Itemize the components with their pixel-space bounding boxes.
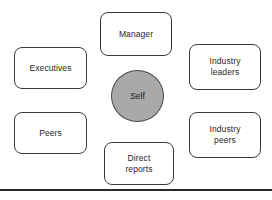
node-executives[interactable]: Executives — [14, 47, 87, 89]
feedback-sources-diagram: Manager Executives Peers Industry leader… — [0, 0, 272, 200]
node-industry-peers-label: Industry peers — [207, 124, 242, 146]
node-executives-label: Executives — [27, 63, 73, 74]
node-manager[interactable]: Manager — [100, 12, 172, 56]
node-self-label: Self — [128, 91, 147, 101]
node-peers[interactable]: Peers — [14, 112, 87, 154]
node-industry-leaders[interactable]: Industry leaders — [189, 44, 261, 90]
node-self-center[interactable]: Self — [111, 70, 164, 122]
node-industry-leaders-label: Industry leaders — [207, 56, 242, 78]
node-industry-peers[interactable]: Industry peers — [189, 112, 261, 158]
node-manager-label: Manager — [117, 29, 155, 40]
node-direct-reports-label: Direct reports — [123, 153, 154, 175]
node-direct-reports[interactable]: Direct reports — [104, 142, 174, 185]
node-peers-label: Peers — [37, 128, 64, 139]
page-baseline-divider — [0, 189, 272, 191]
